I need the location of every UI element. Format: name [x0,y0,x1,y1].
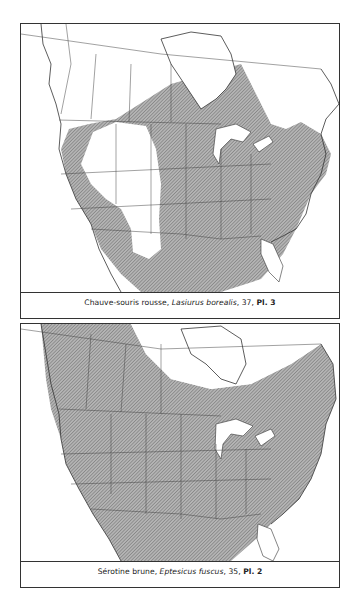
map-panel-lasiurus-borealis: Chauve-souris rousse, Lasiurus borealis,… [20,23,340,319]
north-america-range-map [21,324,339,561]
page-number: 35 [228,567,238,576]
north-america-range-map [21,24,339,292]
plate-number: Pl. 2 [243,567,262,576]
species-common-name: Chauve-souris rousse [84,298,167,307]
page-number: 37 [242,298,252,307]
map-panel-eptesicus-fuscus: Sérotine brune, Eptesicus fuscus, 35, Pl… [20,323,340,588]
range-map [21,24,339,293]
map-caption: Chauve-souris rousse, Lasiurus borealis,… [21,298,339,307]
range-map [21,324,339,562]
species-common-name: Sérotine brune [98,567,155,576]
species-latin-name: Eptesicus fuscus [160,567,224,576]
map-caption: Sérotine brune, Eptesicus fuscus, 35, Pl… [21,567,339,576]
species-latin-name: Lasiurus borealis [172,298,237,307]
plate-number: Pl. 3 [256,298,275,307]
